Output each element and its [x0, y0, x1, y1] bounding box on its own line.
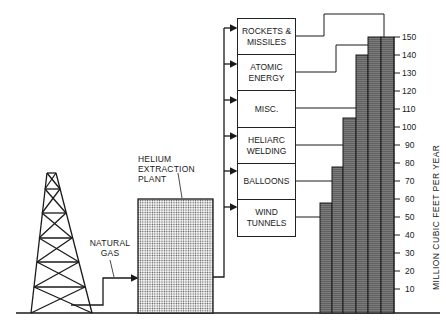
bar-balloons — [332, 167, 343, 313]
natural-gas-label-line1: NATURAL — [88, 238, 132, 248]
tick-120: 120 — [402, 86, 416, 96]
use-label-line1: ROCKETS & — [242, 26, 291, 37]
use-label-line2: WELDING — [247, 146, 287, 157]
plant-label-line1: HELIUM — [138, 154, 195, 164]
tick-150: 150 — [402, 32, 416, 42]
derrick-tower-icon — [31, 173, 92, 313]
use-box-balloons: BALLOONS — [237, 163, 296, 199]
helium-plant-label: HELIUM EXTRACTION PLANT — [138, 154, 195, 184]
tick-130: 130 — [402, 68, 416, 78]
tick-140: 140 — [402, 50, 416, 60]
tick-40: 40 — [405, 230, 414, 240]
plant-label-line2: EXTRACTION — [138, 164, 195, 174]
use-box-rockets-missiles: ROCKETS &MISSILES — [237, 18, 296, 54]
use-box-heliarc-welding: HELIARCWELDING — [237, 127, 296, 163]
use-box-wind-tunnels: WINDTUNNELS — [237, 199, 296, 237]
tick-80: 80 — [405, 158, 414, 168]
bar-series — [320, 37, 394, 313]
use-box-misc: MISC. — [237, 90, 296, 127]
use-label-line1: WIND — [247, 207, 287, 218]
tick-20: 20 — [405, 266, 414, 276]
use-label-line1: MISC. — [255, 104, 279, 115]
use-label-line2: TUNNELS — [247, 218, 287, 229]
tick-10: 10 — [405, 284, 414, 294]
tick-50: 50 — [405, 212, 414, 222]
bar-heliarc-welding — [343, 118, 356, 313]
natural-gas-label: NATURAL GAS — [88, 238, 132, 258]
bar-rockets-missiles — [381, 37, 394, 313]
helium-plant-block — [138, 199, 213, 313]
tick-90: 90 — [405, 140, 414, 150]
plant-label-line3: PLANT — [138, 174, 195, 184]
gas-pipe — [71, 278, 137, 305]
use-label-line2: MISSILES — [242, 37, 291, 48]
bar-misc — [356, 55, 368, 313]
use-label-line1: BALLOONS — [244, 176, 290, 187]
use-label-line2: ENERGY — [249, 73, 285, 84]
tick-100: 100 — [402, 122, 416, 132]
natural-gas-label-line2: GAS — [88, 248, 132, 258]
tick-60: 60 — [405, 194, 414, 204]
tick-110: 110 — [402, 104, 416, 114]
use-label-line1: ATOMIC — [249, 62, 285, 73]
use-label-line1: HELIARC — [247, 135, 287, 146]
tick-30: 30 — [405, 248, 414, 258]
tick-70: 70 — [405, 176, 414, 186]
y-axis-label: MILLION CUBIC FEET PER YEAR — [431, 145, 441, 290]
diagram-canvas — [0, 0, 446, 325]
natural-gas-leader — [110, 260, 114, 277]
bar-atomic-energy — [368, 37, 381, 313]
bar-wind-tunnels — [320, 203, 332, 313]
distribution-lines — [213, 28, 236, 277]
y-axis — [394, 37, 400, 313]
use-box-atomic-energy: ATOMICENERGY — [237, 54, 296, 90]
